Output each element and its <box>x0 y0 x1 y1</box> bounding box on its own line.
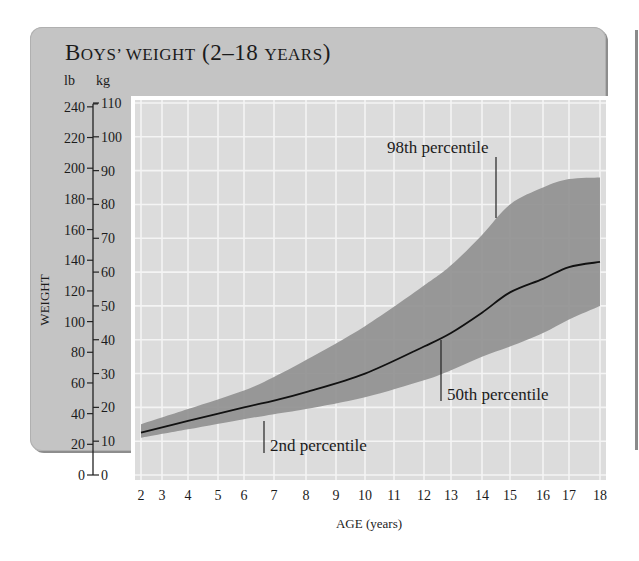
y-tick-label-lb: 220 <box>64 131 85 146</box>
x-tick-label: 3 <box>159 488 166 503</box>
y-axis-title: WEIGHT <box>37 274 52 325</box>
y-tick-label-kg: 70 <box>101 231 115 246</box>
x-tick-label: 9 <box>333 488 340 503</box>
x-tick-label: 18 <box>593 488 607 503</box>
x-tick-label: 16 <box>536 488 550 503</box>
x-tick-label: 13 <box>444 488 458 503</box>
annotation-50th-percentile: 50th percentile <box>447 385 549 404</box>
y-tick-label-kg: 80 <box>101 197 115 212</box>
x-tick-label: 4 <box>185 488 192 503</box>
y-tick-label-lb: 0 <box>78 468 85 483</box>
y-tick-label-kg: 110 <box>101 96 121 111</box>
y-tick-label-kg: 50 <box>101 299 115 314</box>
y-tick-label-lb: 80 <box>71 345 85 360</box>
x-tick-label: 10 <box>358 488 372 503</box>
y-tick-label-lb: 60 <box>71 376 85 391</box>
annotation-98th-percentile: 98th percentile <box>387 138 489 157</box>
x-axis-title: AGE (years) <box>336 516 402 531</box>
y-tick-label-kg: 40 <box>101 333 115 348</box>
y-tick-label-kg: 10 <box>101 434 115 449</box>
y-tick-label-kg: 100 <box>101 130 122 145</box>
x-tick-label: 14 <box>475 488 489 503</box>
x-tick-label: 8 <box>303 488 310 503</box>
y-tick-label-kg: 0 <box>101 468 108 483</box>
x-tick-label: 11 <box>387 488 400 503</box>
x-tick-label: 17 <box>562 488 576 503</box>
y-tick-label-lb: 180 <box>64 192 85 207</box>
y-tick-label-lb: 200 <box>64 161 85 176</box>
annotation-2nd-percentile: 2nd percentile <box>270 436 367 455</box>
x-tick-label: 2 <box>138 488 145 503</box>
y-tick-label-lb: 240 <box>64 100 85 115</box>
y-tick-label-lb: 100 <box>64 315 85 330</box>
y-tick-label-kg: 20 <box>101 400 115 415</box>
y-tick-label-lb: 160 <box>64 223 85 238</box>
x-tick-label: 15 <box>503 488 517 503</box>
y-tick-label-kg: 60 <box>101 265 115 280</box>
x-tick-label: 7 <box>271 488 278 503</box>
y-tick-label-lb: 120 <box>64 284 85 299</box>
y-tick-label-kg: 90 <box>101 164 115 179</box>
x-tick-label: 12 <box>417 488 431 503</box>
weight-chart: 0204060801001201401601802002202400102030… <box>0 0 639 561</box>
y-tick-label-lb: 140 <box>64 253 85 268</box>
y-tick-label-lb: 40 <box>71 407 85 422</box>
x-tick-label: 5 <box>215 488 222 503</box>
y-tick-label-lb: 20 <box>71 437 85 452</box>
x-tick-label: 6 <box>241 488 248 503</box>
y-tick-label-kg: 30 <box>101 367 115 382</box>
